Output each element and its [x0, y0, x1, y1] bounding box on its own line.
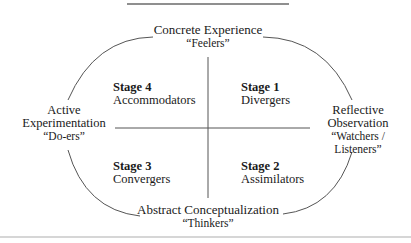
quadrant-stage-1: Stage 1 Divergers: [241, 81, 290, 107]
pole-top-label: Concrete Experience: [154, 22, 263, 37]
bottom-divider: [0, 236, 411, 238]
quadrant-stage-2: Stage 2 Assimilators: [241, 160, 304, 186]
pole-left-nickname: “Do-ers”: [18, 130, 110, 143]
pole-left: Active Experimentation “Do-ers”: [18, 104, 110, 143]
stage-1-name: Divergers: [241, 93, 290, 107]
stage-2-name: Assimilators: [241, 172, 304, 186]
pole-bottom: Abstract Conceptualization “Thinkers”: [130, 203, 286, 230]
pole-right-nickname-2: Listeners”: [318, 143, 398, 156]
pole-right-label-2: Observation: [318, 117, 398, 130]
pole-left-label-2: Experimentation: [18, 117, 110, 130]
stage-4-name: Accommodators: [113, 93, 196, 107]
quadrant-stage-4: Stage 4 Accommodators: [113, 81, 196, 107]
quadrant-stage-3: Stage 3 Convergers: [113, 160, 170, 186]
pole-right: Reflective Observation “Watchers / Liste…: [318, 104, 398, 156]
pole-right-nickname-1: “Watchers /: [318, 130, 398, 143]
stage-3-name: Convergers: [113, 172, 170, 186]
pole-bottom-nickname: “Thinkers”: [130, 217, 286, 230]
pole-top: Concrete Experience “Feelers”: [150, 23, 266, 50]
pole-top-nickname: “Feelers”: [150, 37, 266, 50]
pole-bottom-label: Abstract Conceptualization: [137, 202, 279, 217]
